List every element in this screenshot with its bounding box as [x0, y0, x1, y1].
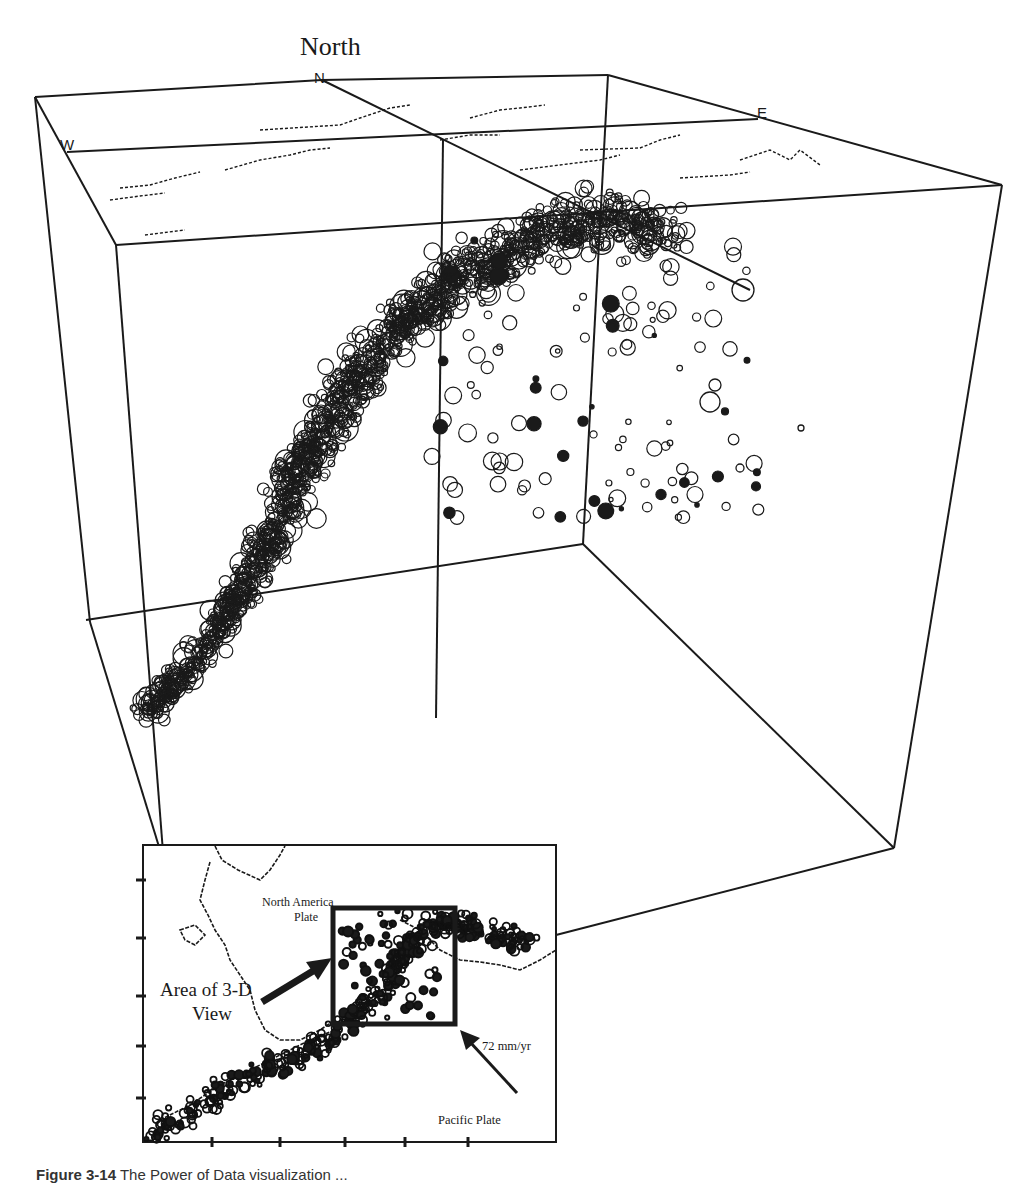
quake-marker — [744, 357, 750, 363]
quake-marker — [463, 330, 474, 341]
quake-marker — [219, 644, 233, 658]
inset-quake-marker — [304, 1043, 313, 1052]
quake-marker — [551, 385, 566, 400]
quake-marker — [456, 232, 467, 243]
quake-marker — [589, 496, 600, 507]
inset-quake-marker — [380, 999, 385, 1004]
quake-marker — [667, 420, 672, 425]
quake-marker — [491, 253, 507, 269]
inset-quake-marker — [356, 924, 362, 930]
inset-quake-marker — [217, 1093, 223, 1099]
label-north-america: North America — [262, 895, 334, 909]
quake-marker — [533, 376, 539, 382]
quake-marker — [643, 502, 652, 511]
quake-marker — [798, 425, 804, 431]
inset-quake-marker — [387, 954, 393, 960]
quake-marker — [722, 502, 730, 510]
quake-marker — [752, 482, 761, 491]
inset-quake-marker — [383, 972, 388, 977]
quake-marker — [512, 416, 527, 431]
inset-quake-marker — [339, 960, 348, 969]
quake-marker — [615, 444, 621, 450]
quake-marker — [626, 419, 631, 424]
inset-quake-marker — [246, 1072, 251, 1077]
quake-marker — [556, 349, 560, 353]
coastline-segment — [225, 148, 330, 170]
inner-bottom-diagonal — [583, 544, 894, 848]
quake-marker — [672, 497, 678, 503]
quake-marker — [675, 514, 681, 520]
quake-marker — [533, 508, 544, 519]
quake-marker — [606, 480, 612, 486]
quake-marker — [677, 511, 690, 524]
inset-quake-marker — [430, 988, 437, 995]
quake-marker — [648, 302, 655, 309]
quake-marker — [530, 382, 541, 393]
inset-quake-marker — [236, 1081, 242, 1087]
quake-marker — [580, 293, 587, 300]
label-view: View — [192, 1003, 232, 1024]
inset-quake-marker — [343, 927, 353, 937]
inset-quake-marker — [399, 950, 404, 955]
inset-quake-marker — [417, 949, 422, 954]
quake-marker — [709, 379, 721, 391]
coastline-segment — [440, 135, 500, 140]
quake-marker — [695, 342, 706, 353]
quake-marker — [652, 333, 656, 337]
compass-north: N — [314, 69, 325, 86]
quake-marker — [518, 486, 527, 495]
quake-marker — [722, 408, 729, 415]
inset-quake-marker — [383, 932, 390, 939]
inset-quake-marker — [157, 1127, 163, 1133]
top-face-coastline — [110, 105, 820, 235]
inset-quake-marker — [366, 936, 374, 944]
quake-marker — [445, 387, 462, 404]
quake-marker — [574, 305, 580, 311]
quake-marker — [668, 477, 676, 485]
quake-marker — [700, 392, 720, 412]
inset-quake-marker — [466, 933, 474, 941]
coastline-segment — [110, 193, 165, 200]
quake-marker — [664, 271, 678, 285]
quake-marker — [616, 235, 622, 241]
quake-marker — [528, 267, 535, 274]
inset-quake-marker — [166, 1117, 175, 1126]
inset-quake-marker — [397, 942, 403, 948]
inset-quake-marker — [395, 975, 404, 984]
cube-bottom-front — [556, 848, 894, 935]
quake-marker — [580, 333, 589, 342]
inset-quake-marker — [187, 1108, 193, 1114]
quake-marker — [558, 450, 569, 461]
inset-quake-marker — [437, 917, 443, 923]
quake-marker — [444, 507, 455, 518]
quake-marker — [481, 361, 493, 373]
quake-marker — [581, 247, 596, 262]
quake-marker — [661, 442, 670, 451]
quake-marker — [677, 365, 683, 371]
inset-quake-marker — [361, 966, 371, 976]
quake-marker — [575, 180, 592, 197]
quake-marker — [424, 448, 440, 464]
quake-marker — [490, 476, 506, 492]
quake-marker — [590, 405, 594, 409]
inset-quake-marker — [255, 1079, 259, 1083]
quake-marker — [539, 473, 551, 485]
quake-marker — [732, 279, 754, 301]
quake-marker — [753, 504, 764, 515]
quake-marker — [347, 333, 356, 342]
quake-marker — [555, 258, 571, 274]
quake-marker — [467, 382, 474, 389]
quake-marker — [555, 512, 566, 523]
quake-marker — [469, 347, 485, 363]
quake-marker — [728, 434, 739, 445]
inset-quake-marker — [318, 1056, 323, 1061]
coastline-segment — [740, 150, 820, 165]
quake-marker — [619, 507, 623, 511]
coastline-segment — [580, 135, 680, 150]
quake-marker — [471, 237, 478, 244]
inset-quake-marker — [377, 991, 383, 997]
quake-marker — [627, 469, 634, 476]
quake-marker — [650, 317, 655, 322]
inset-quake-marker — [348, 1005, 358, 1015]
quake-marker — [647, 441, 662, 456]
